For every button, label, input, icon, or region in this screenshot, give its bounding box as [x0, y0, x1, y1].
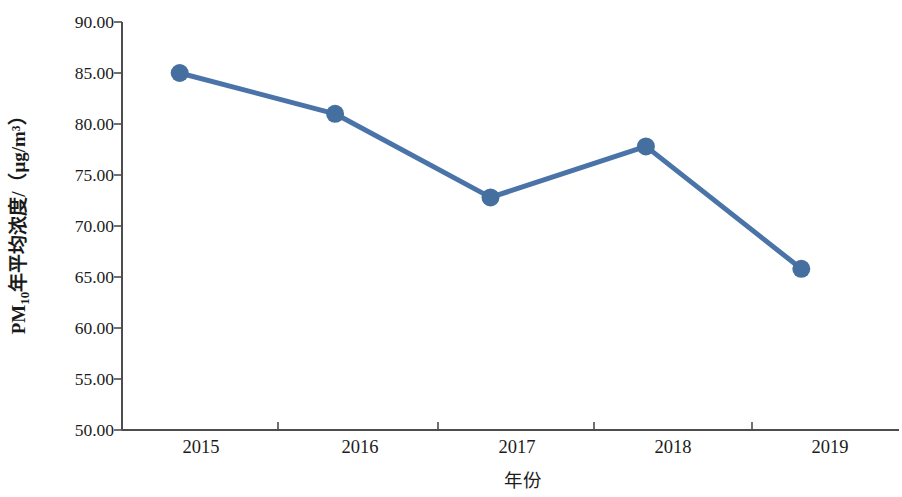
- x-tick-label: 2015: [141, 437, 261, 457]
- x-tick-label: 2018: [613, 437, 733, 457]
- chart-figure: PM10年平均浓度/（μg/m³） 90.00 85.00 80.00 75.0…: [0, 0, 902, 497]
- x-tick-label: 2016: [300, 437, 420, 457]
- data-point: [326, 105, 344, 123]
- data-point: [171, 64, 189, 82]
- x-tick-label: 2017: [457, 437, 577, 457]
- x-axis-ticks: [278, 422, 752, 430]
- data-point: [637, 137, 655, 155]
- data-point: [482, 188, 500, 206]
- x-tick-label: 2019: [770, 437, 890, 457]
- y-axis-ticks: [114, 22, 122, 430]
- data-point: [792, 260, 810, 278]
- plot-area: [0, 0, 902, 497]
- x-axis-title: 年份: [0, 466, 902, 492]
- data-series-line: [180, 73, 802, 269]
- x-axis-title-text: 年份: [504, 471, 542, 491]
